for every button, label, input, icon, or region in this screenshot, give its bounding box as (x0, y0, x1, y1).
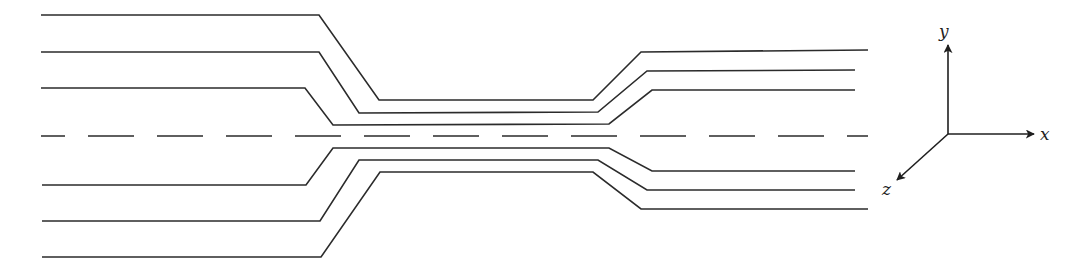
upper-streamlines (41, 15, 868, 125)
coordinate-axes: x y z (881, 21, 1050, 199)
streamline-lower-middle (42, 160, 855, 221)
streamline-upper-inner (41, 88, 855, 125)
y-axis-label: y (938, 21, 949, 41)
z-axis-arrow-icon (897, 134, 948, 180)
x-axis-label: x (1040, 124, 1050, 144)
contraction-streamline-diagram: x y z (0, 0, 1090, 274)
z-axis-label: z (881, 179, 892, 199)
streamline-upper-middle (41, 52, 855, 113)
lower-streamlines (42, 148, 868, 257)
streamline-lower-inner (42, 148, 855, 185)
